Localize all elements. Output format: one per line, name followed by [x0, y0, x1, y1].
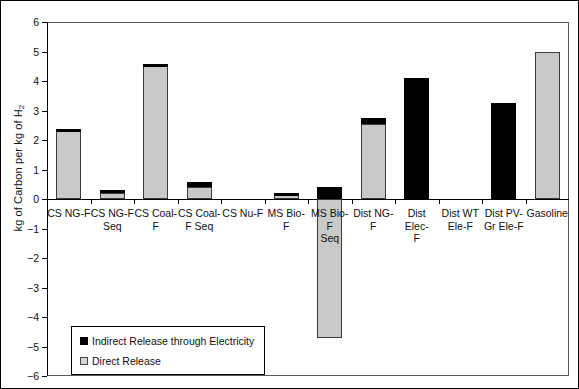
y-axis-tick [42, 317, 47, 318]
bar [230, 22, 255, 376]
bar-segment-indirect [317, 187, 342, 199]
bar-segment-indirect [56, 129, 81, 132]
x-axis-category-label: MS Bio-FSeq [308, 207, 352, 245]
legend-swatch-direct-icon [80, 357, 88, 365]
bar [491, 22, 516, 376]
x-axis-category-label-line: Gr Ele-F [482, 220, 526, 233]
bar-segment-direct [143, 66, 168, 199]
bar [404, 22, 429, 376]
x-axis-tick [134, 199, 135, 204]
bar-segment-direct [361, 124, 386, 199]
x-axis-category-label-line: Dist PV- [482, 207, 526, 220]
x-axis-category-label-line: F [395, 232, 439, 245]
bar-segment-indirect [100, 190, 125, 193]
bar-segment-indirect [143, 64, 168, 67]
x-axis-category-label-line: Seq [308, 232, 352, 245]
x-axis-tick [221, 199, 222, 204]
bar-segment-indirect [274, 193, 299, 196]
x-axis-category-label-line: CS Coal- [178, 207, 222, 220]
y-axis-tick-label: −1 [27, 223, 39, 235]
x-axis-category-label: CS Coal-F [134, 207, 178, 232]
x-axis-category-label: CS Coal-F Seq [178, 207, 222, 232]
bar-segment-direct [535, 52, 560, 200]
x-axis-category-label: Dist NG-F [352, 207, 396, 232]
x-axis-tick [352, 199, 353, 204]
bar [448, 22, 473, 376]
x-axis-category-label-line: Ele-F [439, 220, 483, 233]
y-axis-tick [42, 258, 47, 259]
y-axis-tick-label: 2 [33, 134, 39, 146]
y-axis-tick [42, 111, 47, 112]
y-axis-title-text: kg of Carbon per kg of H [12, 109, 24, 231]
y-axis-tick-label: 5 [33, 46, 39, 58]
bar-segment-direct [100, 193, 125, 199]
chart-legend: Indirect Release through Electricity Dir… [71, 326, 265, 375]
bar-segment-indirect [404, 78, 429, 199]
x-axis-tick [439, 199, 440, 204]
bar-segment-indirect [361, 118, 386, 124]
bar-segment-direct [187, 187, 212, 199]
x-axis-category-label-line: Dist WT [439, 207, 483, 220]
x-axis-category-label: MS Bio-F [265, 207, 309, 232]
bar-segment-indirect [491, 103, 516, 199]
bar [535, 22, 560, 376]
y-axis-tick [42, 140, 47, 141]
x-axis-tick [482, 199, 483, 204]
x-axis-category-label-line: Dist NG-F [352, 207, 396, 232]
x-axis-category-label: Dist PV-Gr Ele-F [482, 207, 526, 232]
x-axis-category-label-line: F [134, 220, 178, 233]
legend-swatch-indirect-icon [80, 337, 88, 345]
x-axis-category-label-line: Gasoline [526, 207, 570, 220]
y-axis-tick [42, 170, 47, 171]
legend-item-indirect: Indirect Release through Electricity [80, 333, 254, 348]
y-axis-tick-label: −2 [27, 252, 39, 264]
x-axis-category-label-line: CS Nu-F [221, 207, 265, 220]
legend-label-indirect: Indirect Release through Electricity [92, 335, 254, 347]
x-axis-category-label: CS Nu-F [221, 207, 265, 220]
y-axis-tick-label: −6 [27, 370, 39, 382]
bar [274, 22, 299, 376]
y-axis-tick [42, 52, 47, 53]
y-axis-title: kg of Carbon per kg of H2 [12, 83, 26, 253]
x-axis-category-label: CS NG-F [47, 207, 91, 220]
y-axis-tick [42, 22, 47, 23]
y-axis-tick [42, 229, 47, 230]
y-axis-tick-label: 0 [33, 193, 39, 205]
x-axis-category-label-line: MS Bio-F [308, 207, 352, 232]
bar [317, 22, 342, 376]
legend-label-direct: Direct Release [92, 355, 161, 367]
y-axis-tick-label: −3 [27, 282, 39, 294]
y-axis-tick-label: 3 [33, 105, 39, 117]
x-axis-category-label-line: Seq [91, 220, 135, 233]
x-axis-category-label: Gasoline [526, 207, 570, 220]
x-axis-category-label: Dist WTEle-F [439, 207, 483, 232]
bar [56, 22, 81, 376]
x-axis-tick [265, 199, 266, 204]
y-axis-tick-label: −4 [27, 311, 39, 323]
y-axis-tick-label: −5 [27, 341, 39, 353]
x-axis-category-label-line: Dist Elec- [395, 207, 439, 232]
y-axis-tick [42, 376, 47, 377]
x-axis-category-label-line: CS NG-F [91, 207, 135, 220]
x-axis-category-label: CS NG-FSeq [91, 207, 135, 232]
bar [187, 22, 212, 376]
x-axis-tick [395, 199, 396, 204]
bar-segment-indirect [187, 182, 212, 186]
y-axis-tick [42, 288, 47, 289]
x-axis-category-label-line: F Seq [178, 220, 222, 233]
x-axis-tick [91, 199, 92, 204]
chart-figure: kg of Carbon per kg of H2 6543210−1−2−3−… [0, 0, 579, 389]
plot-area: 6543210−1−2−3−4−5−6 CS NG-FCS NG-FSeqCS … [47, 22, 569, 376]
x-axis-tick [178, 199, 179, 204]
bar [143, 22, 168, 376]
x-axis-tick [526, 199, 527, 204]
y-axis-tick [42, 81, 47, 82]
y-axis-title-subscript: 2 [17, 105, 26, 110]
x-axis-category-label-line: CS Coal- [134, 207, 178, 220]
legend-item-direct: Direct Release [80, 353, 254, 368]
x-axis-category-label: Dist Elec-F [395, 207, 439, 245]
y-axis-tick [42, 347, 47, 348]
x-axis-tick [47, 199, 48, 204]
y-axis-tick-label: 1 [33, 164, 39, 176]
y-axis-tick-label: 6 [33, 16, 39, 28]
